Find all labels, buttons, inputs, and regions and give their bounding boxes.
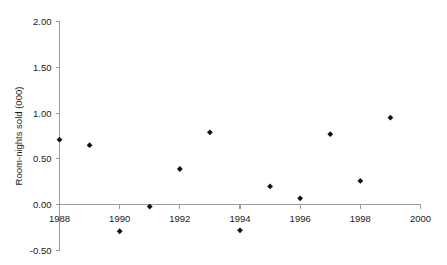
y-axis-tick-label: 0.50 [33, 153, 52, 164]
y-axis-tick-label: -0.50 [30, 245, 52, 256]
x-axis-tick-label: 1994 [229, 213, 250, 224]
data-point-marker [388, 115, 394, 121]
x-axis-group: 1988199019921994199619982000 [49, 205, 431, 224]
x-axis-tick-label: 1992 [169, 213, 190, 224]
data-points-group [57, 115, 394, 234]
data-point-marker [297, 195, 303, 201]
data-point-marker [207, 129, 213, 135]
x-axis-tick-label: 1990 [109, 213, 130, 224]
data-point-marker [237, 227, 243, 233]
data-point-marker [327, 131, 333, 137]
data-point-marker [357, 178, 363, 184]
x-axis-tick-label: 1988 [49, 213, 70, 224]
y-axis-tick-label: 1.00 [33, 108, 52, 119]
data-point-marker [117, 228, 123, 234]
y-axis-title: Room-nights sold (000) [13, 87, 24, 186]
data-point-marker [57, 137, 63, 143]
axis-titles-group: Room-nights sold (000) [13, 87, 24, 186]
data-point-marker [177, 166, 183, 172]
y-axis-tick-label: 0.00 [33, 199, 52, 210]
chart-canvas: -0.500.000.501.001.502.00 19881990199219… [0, 0, 447, 265]
x-axis-tick-label: 1996 [290, 213, 311, 224]
y-axis-tick-label: 2.00 [33, 16, 52, 27]
data-point-marker [87, 142, 93, 148]
x-axis-tick-label: 1998 [350, 213, 371, 224]
scatter-chart: -0.500.000.501.001.502.00 19881990199219… [0, 0, 447, 265]
x-axis-tick-label: 2000 [410, 213, 431, 224]
data-point-marker [267, 183, 273, 189]
y-axis-tick-label: 1.50 [33, 62, 52, 73]
